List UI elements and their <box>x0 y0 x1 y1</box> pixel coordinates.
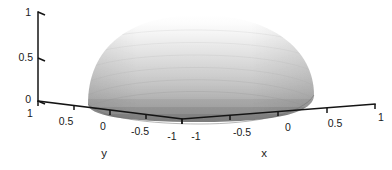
x-axis-title: x <box>261 147 267 159</box>
x-tick-label: 0.5 <box>328 117 343 129</box>
hemisphere-surface <box>88 15 315 124</box>
y-tick-label: -1 <box>167 130 176 142</box>
z-tick-labels: 1 0.5 0 <box>18 6 33 105</box>
surface-plot-figure: 1 0.5 0 1 0.5 0 -0.5 -1 -1 -0.5 0 0.5 1 … <box>0 0 392 170</box>
y-tick-label: 0.5 <box>59 115 74 127</box>
y-tick-label: 1 <box>27 107 33 119</box>
x-tick-label: 1 <box>378 111 384 123</box>
z-tick-label: 1 <box>25 6 31 18</box>
z-axis <box>38 12 45 104</box>
plot-canvas: 1 0.5 0 1 0.5 0 -0.5 -1 -1 -0.5 0 0.5 1 … <box>0 0 392 170</box>
z-tick-label: 0.5 <box>18 51 33 63</box>
x-tick-label: 0 <box>285 121 291 133</box>
z-tick-label: 0 <box>25 93 31 105</box>
y-tick-label: -0.5 <box>131 125 149 137</box>
y-tick-label: 0 <box>100 120 106 132</box>
x-tick-label: -0.5 <box>233 126 251 138</box>
x-tick-label: -1 <box>191 130 200 142</box>
y-axis-title: y <box>101 147 107 159</box>
